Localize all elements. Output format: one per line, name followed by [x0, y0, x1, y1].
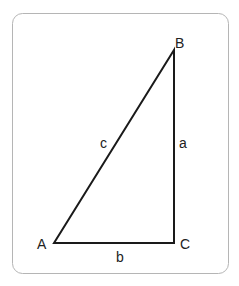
- frame-border: [13, 14, 229, 274]
- vertex-label-b: B: [175, 35, 184, 51]
- triangle-diagram: A B C a b c: [0, 0, 239, 286]
- side-label-c: c: [100, 135, 107, 151]
- side-label-a: a: [179, 135, 187, 151]
- vertex-label-c: C: [180, 236, 190, 252]
- side-label-b: b: [116, 249, 124, 265]
- vertex-label-a: A: [37, 236, 47, 252]
